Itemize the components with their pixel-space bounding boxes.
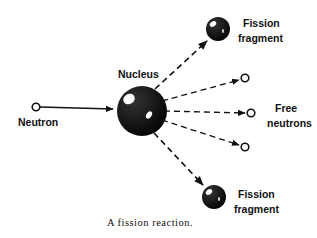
fragment-sphere-icon: [202, 185, 226, 209]
free-neutron-1: [241, 74, 249, 82]
fragment-top-label-line2: fragment: [238, 32, 283, 44]
fragment-sphere-icon: [206, 17, 230, 41]
fragment-top-label-line1: Fission: [243, 17, 280, 29]
nucleus-sphere-icon: [117, 86, 167, 136]
fragment-top: [206, 17, 230, 41]
fragment-bottom-label-line1: Fission: [238, 188, 275, 200]
arrow-to-fragment-bottom: [154, 133, 203, 185]
free-neutrons-label-line2: neutrons: [267, 117, 312, 129]
nucleus: [117, 86, 167, 136]
neutron-icon: [32, 103, 40, 111]
incoming-neutron-arrow: [40, 107, 113, 109]
fission-diagram: Neutron Nucleus Fission fragment Free ne…: [0, 0, 317, 238]
free-neutrons-label-line1: Free: [275, 102, 297, 114]
arrow-to-fragment-top: [155, 41, 207, 89]
fragment-bottom: [202, 185, 226, 209]
caption: A fission reaction.: [107, 217, 193, 228]
free-neutron-2: [247, 109, 255, 117]
neutron-label: Neutron: [18, 116, 58, 128]
arrow-to-free-neutron-2: [164, 111, 245, 113]
arrow-to-free-neutron-1: [162, 80, 239, 101]
fragment-bottom-label-line2: fragment: [234, 203, 279, 215]
incoming-neutron: [32, 103, 40, 111]
nucleus-label: Nucleus: [118, 68, 159, 80]
free-neutron-3: [241, 143, 249, 151]
arrow-to-free-neutron-3: [162, 120, 239, 145]
